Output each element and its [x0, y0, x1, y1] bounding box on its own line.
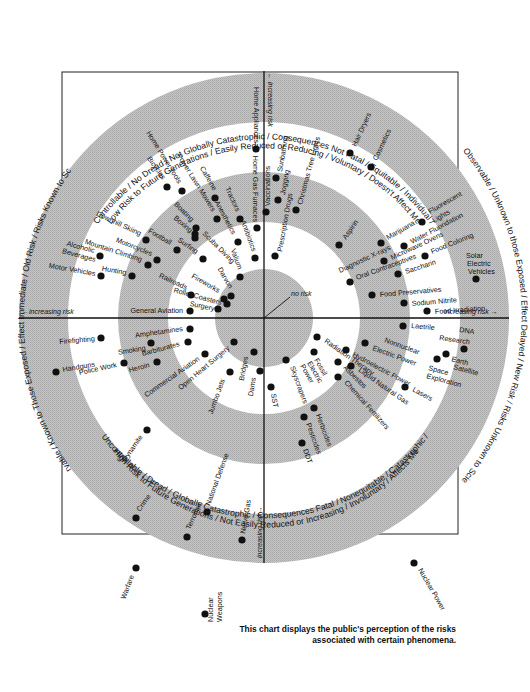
- hazard-dot: [282, 356, 289, 363]
- hazard-dot: [97, 272, 104, 279]
- hazard-dot: [223, 300, 230, 307]
- hazard-dot: [442, 350, 449, 357]
- hazard-dot: [144, 261, 151, 268]
- hazard-item: Home Gas Furnaces: [251, 156, 261, 232]
- hazard-dot: [132, 514, 139, 521]
- hazard-dot: [186, 325, 193, 332]
- hazard-dot: [361, 339, 368, 346]
- hazard-dot: [250, 348, 257, 355]
- hazard-dot: [334, 373, 341, 380]
- risk-perception-diagram: no risk ← increasing risk ←increasing ri…: [0, 0, 530, 692]
- hazard-dot: [418, 218, 425, 225]
- hazard-dot: [433, 355, 440, 362]
- hazard-item: Warfare: [119, 564, 140, 600]
- hazard-dot: [342, 346, 349, 353]
- hazard-dot: [346, 278, 353, 285]
- hazard-label: Weapons: [215, 591, 224, 622]
- hazard-dot: [147, 339, 154, 346]
- hazard-dot: [153, 358, 160, 365]
- hazard-dot: [460, 345, 467, 352]
- hazard-dot: [234, 238, 241, 245]
- hazard-label: General Aviation: [130, 306, 183, 315]
- hazard-dot: [300, 413, 307, 420]
- hazard-dot: [267, 383, 274, 390]
- hazard-dot: [262, 208, 269, 215]
- hazard-dot: [97, 334, 104, 341]
- diagram-canvas: no risk ← increasing risk ←increasing ri…: [0, 0, 530, 692]
- hazard-dot: [214, 305, 221, 312]
- hazard-dot: [226, 368, 233, 375]
- hazard-dot: [346, 149, 353, 156]
- hazard-dot: [184, 338, 191, 345]
- hazard-dot: [187, 291, 194, 298]
- hazard-label: Warfare: [119, 574, 136, 601]
- hazard-dot: [256, 367, 263, 374]
- hazard-dot: [410, 559, 417, 566]
- hazard-dot: [335, 241, 342, 248]
- hazard-dot: [120, 359, 127, 366]
- hazard-dot: [274, 196, 281, 203]
- hazard-dot: [191, 234, 198, 241]
- hazard-dot: [132, 564, 139, 571]
- hazard-item: Vehicles: [468, 267, 495, 276]
- hazard-dot: [199, 255, 206, 262]
- hazard-dot: [128, 272, 135, 279]
- hazard-dot: [236, 273, 243, 280]
- hazard-dot: [292, 206, 299, 213]
- hazard-dot: [96, 252, 103, 259]
- hazard-label: Nuclear Power: [416, 567, 448, 613]
- hazard-dot: [142, 236, 149, 243]
- hazard-dot: [399, 322, 406, 329]
- hazard-dot: [227, 292, 234, 299]
- hazard-dot: [251, 254, 258, 261]
- axis-label-top: ← increasing risk: [266, 73, 274, 127]
- hazard-dot: [213, 215, 220, 222]
- hazard-item: Nuclear Power: [410, 559, 448, 612]
- hazard-label: Nuclear: [206, 597, 215, 622]
- hazard-dot: [173, 246, 180, 253]
- hazard-dot: [201, 350, 208, 357]
- hazard-item: Weapons: [215, 591, 224, 622]
- hazard-dot: [401, 383, 408, 390]
- hazard-dot: [163, 183, 170, 190]
- hazard-dot: [367, 163, 374, 170]
- hazard-dot: [178, 187, 185, 194]
- hazard-dot: [334, 358, 341, 365]
- hazard-label: Vaccinations: [263, 165, 272, 206]
- hazard-label: Home Appliances: [252, 87, 261, 143]
- hazard-dot: [368, 291, 375, 298]
- hazard-dot: [253, 224, 260, 231]
- hazard-dot: [143, 426, 150, 433]
- hazard-dot: [186, 307, 193, 314]
- hazard-dot: [230, 338, 237, 345]
- hazard-dot: [153, 256, 160, 263]
- hazard-dot: [472, 275, 479, 282]
- hazard-dot: [421, 252, 428, 259]
- center-label: no risk: [291, 290, 312, 297]
- caption-line-1: This chart displays the public's percept…: [239, 624, 456, 634]
- hazard-dot: [203, 508, 210, 515]
- hazard-item: Nuclear: [201, 597, 215, 622]
- hazard-dot: [313, 333, 320, 340]
- hazard-dot: [423, 307, 430, 314]
- hazard-dot: [183, 533, 190, 540]
- hazard-item: Home Appliances: [252, 87, 261, 153]
- hazard-dot: [52, 368, 59, 375]
- hazard-label: Home Gas Furnaces: [251, 156, 260, 223]
- hazard-dot: [394, 270, 401, 277]
- hazard-label: Vehicles: [468, 267, 495, 276]
- hazard-dot: [298, 439, 305, 446]
- hazard-dot: [271, 252, 278, 259]
- hazard-dot: [252, 145, 259, 152]
- hazard-dot: [400, 299, 407, 306]
- hazard-dot: [310, 348, 317, 355]
- hazard-dot: [272, 174, 279, 181]
- hazard-dot: [238, 536, 245, 543]
- axis-label-left: ←increasing risk: [22, 308, 74, 316]
- hazard-dot: [236, 215, 243, 222]
- caption-line-2: associated with certain phenomena.: [312, 635, 456, 645]
- hazard-dot: [310, 404, 317, 411]
